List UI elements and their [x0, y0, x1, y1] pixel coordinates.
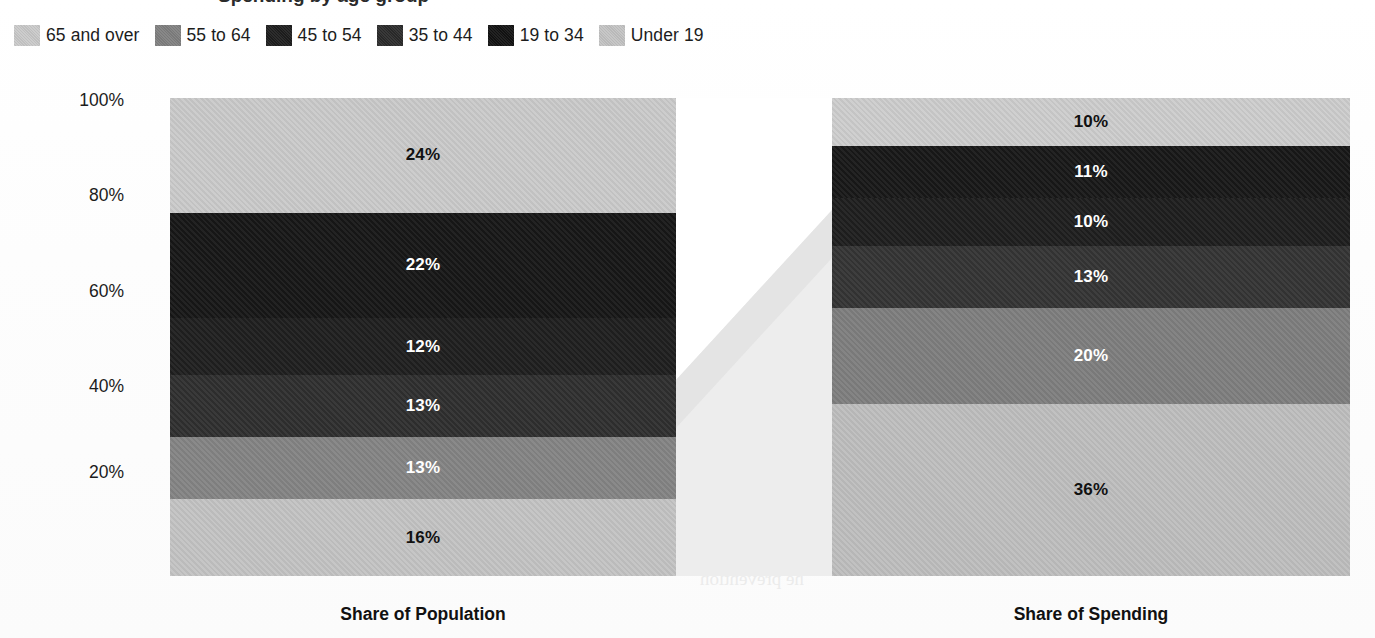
bar-segment-value: 10%	[1074, 112, 1109, 132]
bar-segment-value: 20%	[1074, 346, 1109, 366]
bar-segment-65-and-over[interactable]: 24%	[170, 98, 676, 213]
bar-share-of-spending[interactable]: 10% 11% 10% 13% 20% 36%	[832, 98, 1350, 576]
x-axis-label-population: Share of Population	[170, 604, 676, 625]
bar-segment-65-and-over[interactable]: 10%	[832, 98, 1350, 146]
bar-segment-under-19[interactable]: 36%	[832, 404, 1350, 576]
connector-ribbon	[676, 98, 832, 576]
bar-segment-under-19[interactable]: 16%	[170, 499, 676, 576]
y-axis-tick-40: 40%	[32, 376, 124, 397]
bar-share-of-population[interactable]: 24% 22% 12% 13% 13% 16%	[170, 98, 676, 576]
y-axis-tick-80: 80%	[32, 185, 124, 206]
bar-segment-35-to-44[interactable]: 13%	[832, 246, 1350, 308]
bar-segment-value: 13%	[406, 396, 441, 416]
bar-segment-value: 13%	[1074, 267, 1109, 287]
bar-segment-45-to-54[interactable]: 10%	[832, 198, 1350, 246]
y-axis-tick-60: 60%	[32, 281, 124, 302]
bar-segment-value: 13%	[406, 458, 441, 478]
bar-segment-value: 12%	[406, 337, 441, 357]
bar-segment-19-to-34[interactable]: 20%	[832, 308, 1350, 404]
bar-segment-55-to-64[interactable]: 11%	[832, 146, 1350, 199]
y-axis-tick-20: 20%	[32, 462, 124, 483]
chart-plot-area: 100% 80% 60% 40% 20% 24% 22% 12% 13% 13%…	[0, 0, 1375, 638]
x-axis-label-spending: Share of Spending	[832, 604, 1350, 625]
y-axis-tick-100: 100%	[32, 90, 124, 111]
bar-segment-19-to-34[interactable]: 13%	[170, 437, 676, 499]
bar-segment-55-to-64[interactable]: 22%	[170, 213, 676, 318]
bar-segment-45-to-54[interactable]: 12%	[170, 318, 676, 375]
bar-segment-value: 10%	[1074, 212, 1109, 232]
bar-segment-value: 24%	[406, 145, 441, 165]
bar-segment-value: 22%	[406, 255, 441, 275]
bar-segment-value: 11%	[1074, 162, 1108, 182]
bar-segment-value: 36%	[1074, 480, 1109, 500]
bar-segment-35-to-44[interactable]: 13%	[170, 375, 676, 437]
bar-segment-value: 16%	[406, 528, 441, 548]
